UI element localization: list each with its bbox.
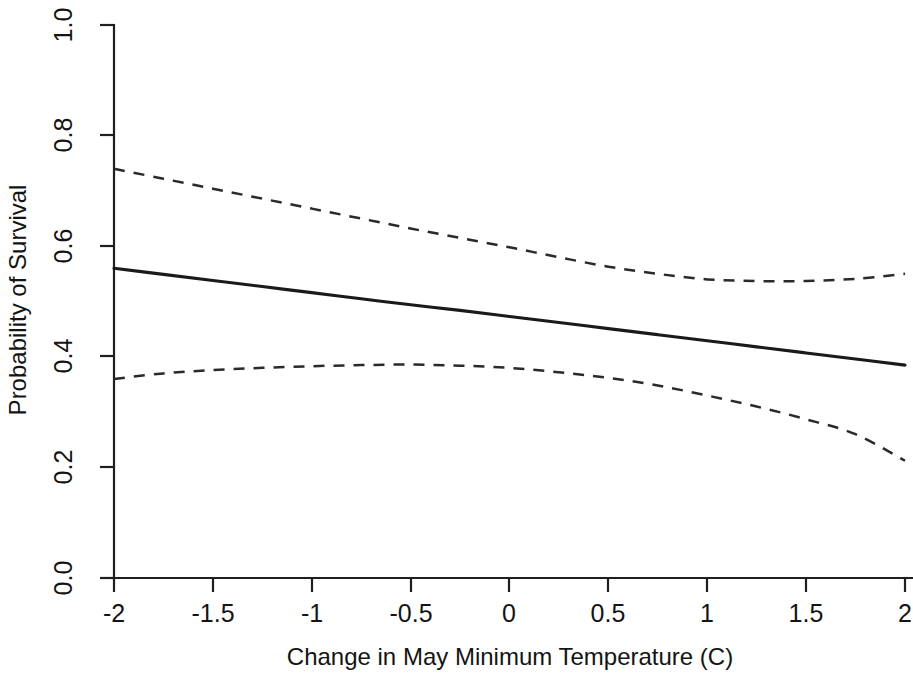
x-tick-label-0: 0 [502,599,516,627]
y-axis-ticks [100,25,114,578]
x-tick-label-2: 2 [898,599,912,627]
x-tick-label-0-5: 0.5 [591,599,626,627]
x-tick-label-1: 1 [700,599,714,627]
x-tick-label-neg2: -2 [103,599,125,627]
x-tick-label-neg0-5: -0.5 [389,599,432,627]
y-tick-label-0-8: 0.8 [49,118,77,153]
x-axis-ticks [114,578,905,592]
y-tick-label-0-0: 0.0 [49,561,77,596]
y-axis-title: Probability of Survival [4,185,31,416]
x-tick-label-1-5: 1.5 [789,599,824,627]
x-axis-title: Change in May Minimum Temperature (C) [287,643,733,670]
y-axis-tick-labels: 1.0 0.8 0.6 0.4 0.2 0.0 [49,8,77,596]
y-tick-label-0-4: 0.4 [49,339,77,374]
survival-probability-plot: 1.0 0.8 0.6 0.4 0.2 0.0 -2 -1.5 -1 -0.5 … [0,0,913,676]
lower-confidence-curve [114,365,905,461]
upper-confidence-curve [114,169,905,282]
y-tick-label-0-2: 0.2 [49,450,77,485]
fitted-survival-curve [114,268,905,365]
y-tick-label-0-6: 0.6 [49,229,77,264]
x-tick-label-neg1: -1 [301,599,323,627]
x-axis-tick-labels: -2 -1.5 -1 -0.5 0 0.5 1 1.5 2 [103,599,912,627]
data-curves [114,169,905,461]
y-tick-label-1-0: 1.0 [49,8,77,43]
x-tick-label-neg1-5: -1.5 [191,599,234,627]
figure-canvas: 1.0 0.8 0.6 0.4 0.2 0.0 -2 -1.5 -1 -0.5 … [0,0,913,676]
